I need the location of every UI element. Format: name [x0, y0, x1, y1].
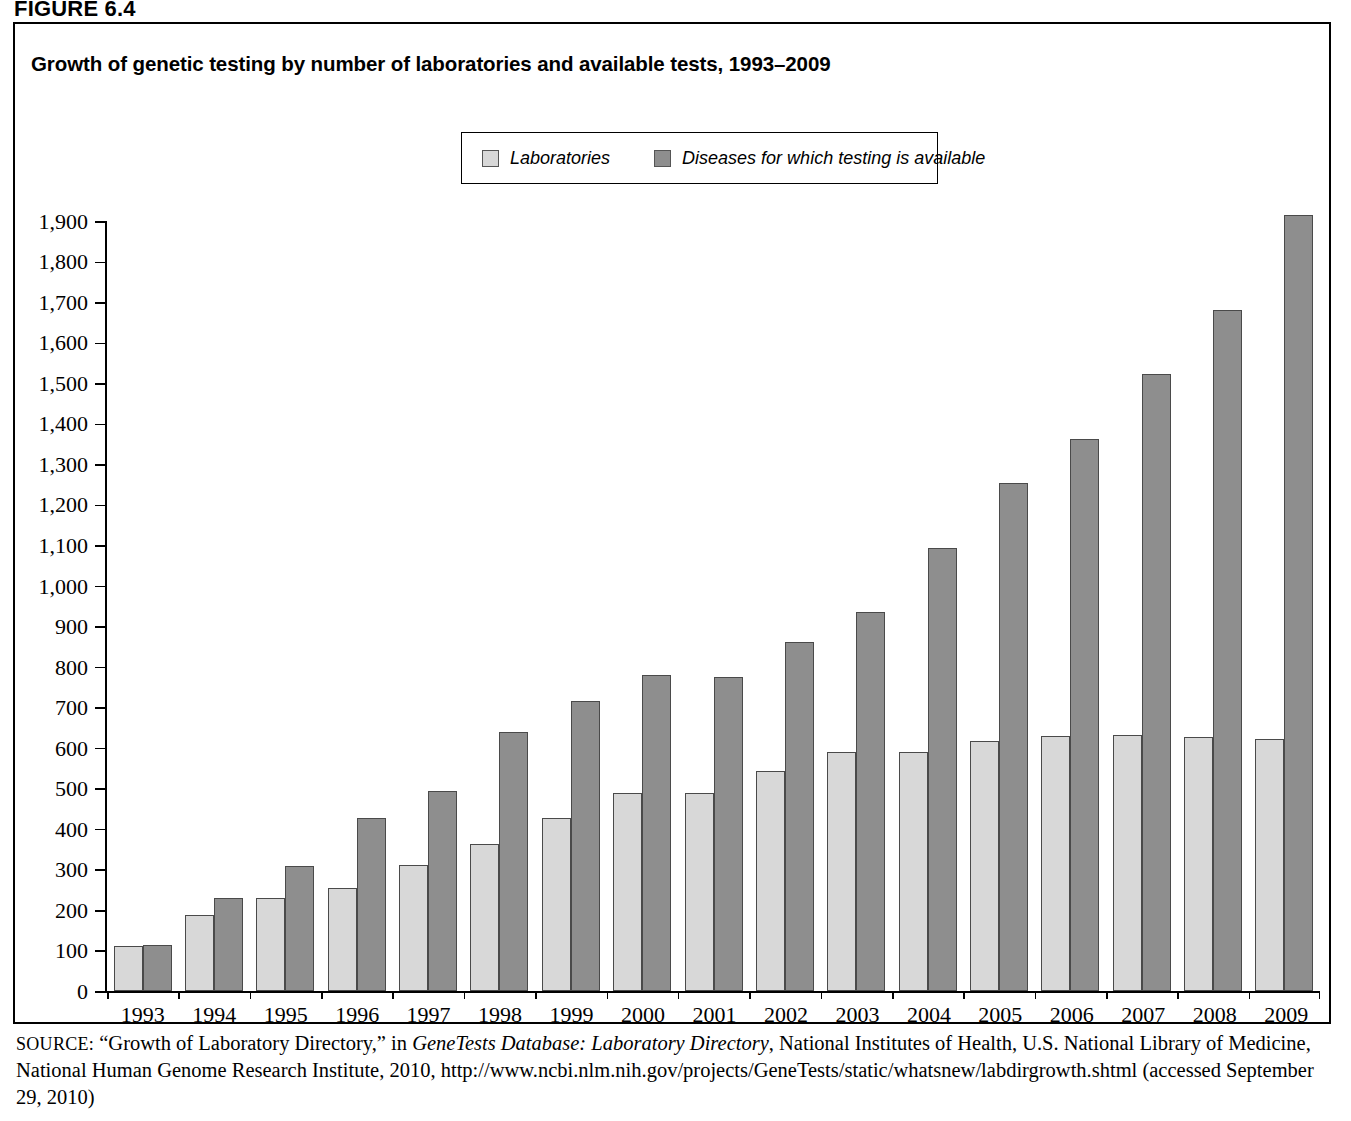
bar-group-1994: [178, 221, 249, 991]
x-label-1993: 1993: [107, 1002, 178, 1028]
x-tick-end: [1319, 991, 1321, 999]
y-tick-label-700: 700: [55, 695, 88, 721]
bar-2008-laboratories: [1184, 737, 1213, 991]
bar-2009-diseases: [1284, 215, 1313, 991]
bar-2000-laboratories: [613, 793, 642, 991]
y-tick-label-1400: 1,400: [39, 411, 89, 437]
y-tick-label-1600: 1,600: [39, 330, 89, 356]
x-tick-2000: [607, 991, 609, 999]
x-axis-line: [105, 991, 1320, 993]
bar-group-1998: [464, 221, 535, 991]
bar-1994-laboratories: [185, 915, 214, 991]
bar-2001-diseases: [714, 677, 743, 991]
x-tick-2003: [821, 991, 823, 999]
bar-2008-diseases: [1213, 310, 1242, 991]
bar-group-1995: [250, 221, 321, 991]
y-tick-label-0: 0: [77, 979, 88, 1005]
bar-2002-laboratories: [756, 771, 785, 991]
bar-2002-diseases: [785, 642, 814, 991]
y-tick-1900: 1,900: [95, 221, 105, 223]
x-tick-2004: [892, 991, 894, 999]
x-label-2008: 2008: [1179, 1002, 1250, 1028]
x-tick-2008: [1177, 991, 1179, 999]
bar-1998-diseases: [499, 732, 528, 991]
bar-group-2007: [1106, 221, 1177, 991]
x-label-2002: 2002: [750, 1002, 821, 1028]
y-tick-label-1300: 1,300: [39, 452, 89, 478]
plot-area: 01002003004005006007008009001,0001,1001,…: [105, 221, 1320, 993]
bar-1996-laboratories: [328, 888, 357, 991]
bar-group-2006: [1035, 221, 1106, 991]
bar-1998-laboratories: [470, 844, 499, 991]
bar-1999-laboratories: [542, 818, 571, 991]
bar-group-1993: [107, 221, 178, 991]
bar-2004-diseases: [928, 548, 957, 991]
legend-label-diseases: Diseases for which testing is available: [682, 148, 985, 169]
x-label-2004: 2004: [893, 1002, 964, 1028]
legend-swatch-laboratories: [482, 150, 499, 167]
bar-2006-laboratories: [1041, 736, 1070, 991]
bar-2004-laboratories: [899, 752, 928, 992]
bar-2001-laboratories: [685, 793, 714, 991]
bar-2003-diseases: [856, 612, 885, 991]
y-tick-400: 400: [95, 829, 105, 831]
bar-group-2004: [892, 221, 963, 991]
y-tick-1100: 1,100: [95, 545, 105, 547]
x-label-2007: 2007: [1108, 1002, 1179, 1028]
y-tick-label-400: 400: [55, 817, 88, 843]
y-tick-label-600: 600: [55, 736, 88, 762]
bar-group-2009: [1249, 221, 1320, 991]
y-tick-1700: 1,700: [95, 302, 105, 304]
bar-2000-diseases: [642, 675, 671, 992]
y-tick-label-1200: 1,200: [39, 492, 89, 518]
bar-group-1996: [321, 221, 392, 991]
x-label-1997: 1997: [393, 1002, 464, 1028]
y-tick-100: 100: [95, 950, 105, 952]
bar-2009-laboratories: [1255, 739, 1284, 991]
x-tick-2001: [678, 991, 680, 999]
x-label-2000: 2000: [607, 1002, 678, 1028]
x-tick-2006: [1035, 991, 1037, 999]
x-tick-2002: [749, 991, 751, 999]
source-italic-title: GeneTests Database: Laboratory Directory: [412, 1032, 769, 1054]
bar-1993-diseases: [143, 945, 172, 991]
bar-group-2008: [1177, 221, 1248, 991]
bar-2005-laboratories: [970, 741, 999, 991]
x-label-1995: 1995: [250, 1002, 321, 1028]
y-tick-label-500: 500: [55, 776, 88, 802]
y-tick-label-1700: 1,700: [39, 290, 89, 316]
legend-label-laboratories: Laboratories: [510, 148, 610, 169]
bar-group-1997: [392, 221, 463, 991]
bar-1997-diseases: [428, 791, 457, 991]
y-tick-500: 500: [95, 788, 105, 790]
x-label-2003: 2003: [822, 1002, 893, 1028]
figure-label: FIGURE 6.4: [14, 0, 136, 22]
y-tick-200: 200: [95, 910, 105, 912]
chart-legend: Laboratories Diseases for which testing …: [461, 132, 938, 184]
bar-1997-laboratories: [399, 865, 428, 991]
x-tick-2005: [963, 991, 965, 999]
source-note: SOURCE: “Growth of Laboratory Directory,…: [16, 1030, 1336, 1111]
x-tick-1993: [107, 991, 109, 999]
y-tick-600: 600: [95, 748, 105, 750]
x-label-2009: 2009: [1251, 1002, 1322, 1028]
bar-1996-diseases: [357, 818, 386, 991]
y-tick-1500: 1,500: [95, 383, 105, 385]
legend-item-diseases: Diseases for which testing is available: [654, 148, 985, 169]
chart-title: Growth of genetic testing by number of l…: [31, 52, 831, 76]
bar-group-2002: [749, 221, 820, 991]
x-tick-2009: [1249, 991, 1251, 999]
bar-2007-laboratories: [1113, 735, 1142, 991]
legend-swatch-diseases: [654, 150, 671, 167]
x-tick-1994: [178, 991, 180, 999]
y-tick-1400: 1,400: [95, 424, 105, 426]
figure-frame: Growth of genetic testing by number of l…: [13, 22, 1331, 1024]
legend-item-laboratories: Laboratories: [482, 148, 610, 169]
bar-2006-diseases: [1070, 439, 1099, 991]
y-tick-label-1000: 1,000: [39, 574, 89, 600]
x-label-1998: 1998: [464, 1002, 535, 1028]
x-tick-1997: [392, 991, 394, 999]
bar-group-1999: [535, 221, 606, 991]
y-tick-label-200: 200: [55, 898, 88, 924]
bar-1999-diseases: [571, 701, 600, 991]
